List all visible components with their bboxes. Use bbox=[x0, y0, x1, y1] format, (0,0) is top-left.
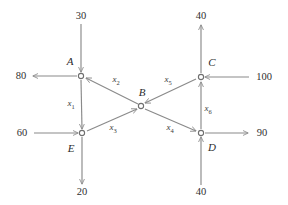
node-label-D: D bbox=[208, 142, 216, 153]
edge-label-x5-sub: 5 bbox=[168, 79, 171, 86]
flow-value-out-bottom-E: 20 bbox=[77, 187, 88, 198]
edge-label-x1: x1 bbox=[67, 99, 74, 110]
node-label-E: E bbox=[68, 143, 75, 154]
edge-label-x6-sub: 6 bbox=[208, 108, 211, 115]
node-A[interactable] bbox=[78, 73, 83, 78]
node-label-B: B bbox=[139, 87, 146, 98]
flow-value-in-bottom-D: 40 bbox=[196, 187, 207, 198]
node-D[interactable] bbox=[198, 130, 203, 135]
edge-label-x3: x3 bbox=[109, 123, 116, 134]
edge-label-x4: x4 bbox=[166, 123, 173, 134]
node-label-C: C bbox=[208, 57, 215, 68]
edge-label-x4-sub: 4 bbox=[170, 127, 173, 134]
diagram-canvas bbox=[0, 0, 288, 205]
flow-value-in-top-A: 30 bbox=[76, 11, 87, 22]
edge-label-x2: x2 bbox=[112, 75, 119, 86]
edge-label-x1-sub: 1 bbox=[71, 103, 74, 110]
node-C[interactable] bbox=[198, 74, 203, 79]
node-label-A: A bbox=[67, 56, 74, 67]
edge-label-x3-sub: 3 bbox=[113, 127, 116, 134]
edge-label-x5: x5 bbox=[164, 75, 171, 86]
flow-value-out-left-A: 80 bbox=[16, 71, 27, 82]
node-E[interactable] bbox=[79, 130, 84, 135]
edge-label-x6: x6 bbox=[204, 104, 211, 115]
flow-value-in-left-E: 60 bbox=[17, 128, 28, 139]
node-B[interactable] bbox=[138, 103, 143, 108]
flow-value-out-top-C: 40 bbox=[196, 11, 207, 22]
edge-label-x2-sub: 2 bbox=[116, 79, 119, 86]
edge-x1-A-to-E bbox=[81, 80, 82, 129]
flow-value-out-right-D: 90 bbox=[257, 128, 268, 139]
network-flow-diagram: A B C D E x1 x2 x3 x4 x5 x6 30 80 60 20 … bbox=[0, 0, 288, 205]
flow-value-in-right-C: 100 bbox=[256, 72, 272, 83]
